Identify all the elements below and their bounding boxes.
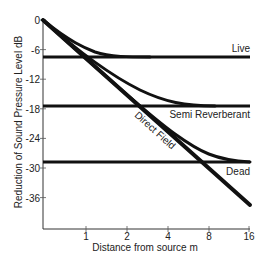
- y-tick-6: -6: [31, 45, 40, 56]
- y-tick-30: -30: [26, 163, 41, 174]
- x-tick-4: 4: [165, 231, 171, 242]
- x-tick-8: 8: [206, 231, 212, 242]
- live-label: Live: [232, 43, 251, 54]
- x-tick-labels: 1 2 4 8 16: [83, 231, 255, 242]
- x-tick-2: 2: [124, 231, 130, 242]
- dead-label: Dead: [226, 166, 250, 177]
- semi-reverberant-curve: [43, 20, 215, 106]
- x-tick-1: 1: [83, 231, 89, 242]
- y-tick-18: -18: [26, 104, 41, 115]
- y-tick-0: 0: [34, 15, 40, 26]
- semi-reverberant-label: Semi Reverberant: [169, 109, 250, 120]
- y-tick-24: -24: [26, 133, 41, 144]
- live-curve: [43, 20, 150, 57]
- sound-level-chart: 0 -6 -12 -18 -24 -30 -36 1 2 4 8 16 Dist…: [0, 0, 267, 260]
- y-axis-title: Reduction of Sound Pressure Level dB: [13, 36, 24, 209]
- y-tick-36: -36: [26, 193, 41, 204]
- y-tick-labels: 0 -6 -12 -18 -24 -30 -36: [26, 15, 41, 204]
- x-axis-title: Distance from source m: [92, 242, 198, 253]
- y-tick-12: -12: [26, 74, 41, 85]
- x-tick-16: 16: [243, 231, 255, 242]
